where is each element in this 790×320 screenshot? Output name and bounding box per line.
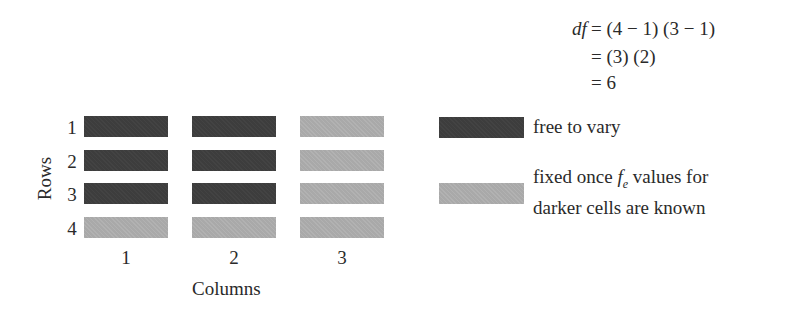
cell-r2-c1-free: [84, 150, 168, 171]
row-label-3: 3: [64, 185, 80, 204]
legend-label-fixed-line-1: fixed once fe values for: [533, 161, 708, 195]
rows-axis-title: Rows: [35, 149, 54, 209]
cell-r3-c2-free: [192, 183, 276, 204]
cell-r4-c2-fixed: [192, 217, 276, 238]
legend-label-free: free to vary: [533, 111, 621, 142]
formula-line-1: = (4 − 1) (3 − 1): [591, 19, 715, 38]
formula-line-3: = 6: [591, 73, 616, 92]
cell-r2-c2-free: [192, 150, 276, 171]
formula-lhs: df: [572, 19, 587, 38]
formula-line-2: = (3) (2): [591, 47, 656, 66]
fe-subscript: e: [623, 177, 628, 191]
cell-r1-c3-fixed: [300, 116, 384, 137]
legend-swatch-free: [439, 117, 524, 138]
cell-r3-c1-free: [84, 183, 168, 204]
row-label-2: 2: [64, 152, 80, 171]
cell-r4-c3-fixed: [300, 217, 384, 238]
cell-r1-c1-free: [84, 116, 168, 137]
fe-symbol: f: [617, 166, 622, 187]
cell-r4-c1-fixed: [84, 217, 168, 238]
cell-r2-c3-fixed: [300, 150, 384, 171]
column-label-2: 2: [219, 248, 249, 267]
row-label-1: 1: [64, 118, 80, 137]
column-label-1: 1: [111, 248, 141, 267]
row-label-4: 4: [64, 219, 80, 238]
column-label-3: 3: [327, 248, 357, 267]
legend-text-before: fixed once: [533, 166, 617, 187]
cell-r3-c3-fixed: [300, 183, 384, 204]
cell-r1-c2-free: [192, 116, 276, 137]
legend-label-fixed-line-2: darker cells are known: [533, 192, 706, 223]
columns-axis-title: Columns: [192, 279, 261, 298]
legend-text-after: values for: [628, 166, 708, 187]
legend-swatch-fixed: [439, 183, 524, 204]
